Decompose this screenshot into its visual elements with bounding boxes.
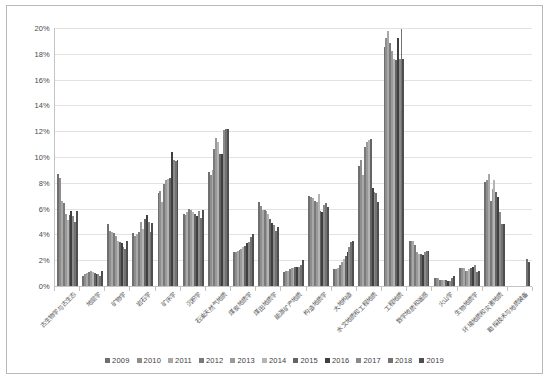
x-axis-category-label: 大地构造 xyxy=(332,291,353,312)
y-axis-tick-label: 4% xyxy=(39,230,50,239)
chart-legend: 2009201020112012201320142015201620172018… xyxy=(7,356,542,365)
bar-group xyxy=(432,28,457,286)
bar xyxy=(402,59,404,286)
legend-item[interactable]: 2014 xyxy=(262,356,287,365)
legend-item[interactable]: 2018 xyxy=(388,356,413,365)
legend-swatch-icon xyxy=(137,358,142,363)
bar-group xyxy=(256,28,281,286)
legend-item[interactable]: 2009 xyxy=(105,356,130,365)
legend-swatch-icon xyxy=(105,358,110,363)
bar xyxy=(327,207,329,286)
bar xyxy=(252,234,254,286)
legend-label: 2014 xyxy=(269,356,287,365)
legend-item[interactable]: 2013 xyxy=(230,356,255,365)
legend-item[interactable]: 2011 xyxy=(168,356,192,365)
chart-frame: 0%2%4%6%8%10%12%14%16%18%20% 古生物学与古生态地层学… xyxy=(6,5,543,374)
y-axis-tick-label: 16% xyxy=(34,75,50,84)
plot-area: 0%2%4%6%8%10%12%14%16%18%20% xyxy=(54,28,532,287)
bar xyxy=(352,241,354,286)
bar-group xyxy=(457,28,482,286)
x-axis-category-label: 岩石学 xyxy=(135,291,152,308)
legend-swatch-icon xyxy=(356,358,361,363)
bar xyxy=(478,271,480,286)
legend-swatch-icon xyxy=(168,358,173,363)
y-axis-tick-label: 0% xyxy=(39,282,50,291)
bar-group xyxy=(231,28,256,286)
bar xyxy=(177,160,179,286)
bar xyxy=(528,262,530,287)
x-axis-category-label: 火山学 xyxy=(437,291,454,308)
bar-group xyxy=(105,28,130,286)
legend-item[interactable]: 2012 xyxy=(199,356,224,365)
legend-label: 2013 xyxy=(237,356,255,365)
bar-group xyxy=(80,28,105,286)
bar xyxy=(377,202,379,286)
chart-screenshot: 0%2%4%6%8%10%12%14%16%18%20% 古生物学与古生态地层学… xyxy=(0,0,550,380)
x-axis-category-label: 煤炭地质学 xyxy=(227,291,253,317)
bar-group xyxy=(306,28,331,286)
bar-group xyxy=(331,28,356,286)
legend-item[interactable]: 2017 xyxy=(356,356,381,365)
legend-item[interactable]: 2015 xyxy=(293,356,318,365)
y-axis-tick-label: 18% xyxy=(34,49,50,58)
bar xyxy=(126,241,128,286)
y-axis-tick-label: 20% xyxy=(34,24,50,33)
y-axis-tick-label: 2% xyxy=(39,256,50,265)
bar-groups xyxy=(55,28,532,286)
legend-swatch-icon xyxy=(230,358,235,363)
y-axis-tick-label: 6% xyxy=(39,204,50,213)
y-axis-tick-label: 12% xyxy=(34,127,50,136)
legend-swatch-icon xyxy=(325,358,330,363)
legend-label: 2017 xyxy=(363,356,381,365)
legend-label: 2018 xyxy=(395,356,413,365)
bar-group xyxy=(155,28,180,286)
x-axis-category-label: 矿物学 xyxy=(110,291,127,308)
bar xyxy=(101,271,103,286)
bar xyxy=(503,224,505,286)
x-axis-tick xyxy=(532,287,533,291)
legend-label: 2019 xyxy=(426,356,444,365)
legend-label: 2015 xyxy=(300,356,318,365)
legend-label: 2016 xyxy=(332,356,350,365)
bar xyxy=(453,276,455,286)
legend-label: 2011 xyxy=(175,356,192,365)
legend-label: 2012 xyxy=(206,356,224,365)
legend-swatch-icon xyxy=(388,358,393,363)
bar xyxy=(202,210,204,286)
x-axis-category-label: 地层学 xyxy=(85,291,102,308)
bar-group xyxy=(381,28,406,286)
legend-item[interactable]: 2010 xyxy=(137,356,162,365)
bar xyxy=(76,211,78,286)
legend-item[interactable]: 2019 xyxy=(419,356,444,365)
bar-group xyxy=(482,28,507,286)
bar xyxy=(302,260,304,286)
x-axis-category-label: 古生物学与古生态 xyxy=(39,291,77,329)
legend-label: 2010 xyxy=(144,356,162,365)
y-axis-tick-label: 8% xyxy=(39,178,50,187)
bar xyxy=(428,251,430,286)
y-axis-tick-label: 14% xyxy=(34,101,50,110)
bar xyxy=(151,223,153,286)
bar-group xyxy=(206,28,231,286)
x-axis-category-label: 沉积学 xyxy=(186,291,203,308)
bar-group xyxy=(281,28,306,286)
legend-swatch-icon xyxy=(199,358,204,363)
legend-swatch-icon xyxy=(419,358,424,363)
x-axis-category-labels: 古生物学与古生态地层学矿物学岩石学矿床学沉积学石油天然气地质煤炭地质学煤田地质学… xyxy=(54,291,532,353)
bar xyxy=(277,227,279,286)
bar-group xyxy=(407,28,432,286)
x-axis-category-label: 矿床学 xyxy=(160,291,177,308)
x-axis-category-label: 构造地质学 xyxy=(303,291,329,317)
legend-swatch-icon xyxy=(262,358,267,363)
x-axis-category-label: 工程地质 xyxy=(383,291,404,312)
bar-group xyxy=(55,28,80,286)
bar-group xyxy=(181,28,206,286)
legend-item[interactable]: 2016 xyxy=(325,356,350,365)
bar-group xyxy=(130,28,155,286)
bar-group xyxy=(356,28,381,286)
y-axis-tick-label: 10% xyxy=(34,153,50,162)
legend-swatch-icon xyxy=(293,358,298,363)
bar-group xyxy=(507,28,532,286)
legend-label: 2009 xyxy=(112,356,130,365)
bar xyxy=(227,129,229,286)
